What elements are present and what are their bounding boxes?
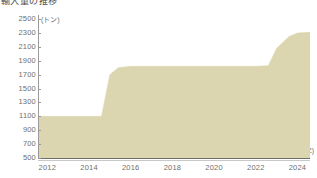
y-axis-tick-label: 1300 <box>19 99 37 107</box>
y-axis-tick-label: 1500 <box>19 85 37 93</box>
x-axis-tick-label: 2024 <box>289 163 307 172</box>
y-axis-tick-label: 1700 <box>19 71 37 79</box>
y-axis-tick-mark <box>38 33 41 34</box>
y-axis-tick-mark <box>38 75 41 76</box>
y-axis-tick-mark <box>38 158 41 159</box>
x-axis-tick-label: 2020 <box>205 163 223 172</box>
y-axis-tick-mark <box>38 61 41 62</box>
x-axis-tick-label: 2014 <box>80 163 98 172</box>
plot-area <box>39 15 310 158</box>
x-axis-tick-label: 2018 <box>164 163 182 172</box>
y-axis-tick-label: 2300 <box>19 29 37 37</box>
y-axis-tick-label: 1100 <box>19 113 36 121</box>
chart-title-strip: 輸入量の推移 <box>0 0 317 7</box>
y-axis-tick-label: 2100 <box>19 43 37 51</box>
area-series-fill <box>39 32 310 158</box>
y-axis-tick-mark <box>38 144 41 145</box>
y-axis-tick-mark <box>38 89 41 90</box>
x-axis-tick-label: 2022 <box>247 163 265 172</box>
x-axis-tick-label: 2016 <box>122 163 140 172</box>
y-axis-tick-mark <box>38 116 41 117</box>
area-series-chart <box>39 15 310 158</box>
x-axis-line-secondary <box>38 160 310 161</box>
y-axis-tick-label: 900 <box>23 126 36 134</box>
chart-root: 輸入量の推移 500700900110013001500170019002100… <box>0 0 317 178</box>
y-axis-tick-label: 700 <box>23 140 36 148</box>
x-axis-line <box>38 158 310 159</box>
y-axis-tick-mark <box>38 130 41 131</box>
y-axis-tick-mark <box>38 19 41 20</box>
y-axis-tick-label: 500 <box>23 154 36 162</box>
y-axis-tick-mark <box>38 102 41 103</box>
y-axis-tick-label: 2500 <box>19 15 37 23</box>
y-axis-tick-label: 1900 <box>19 57 37 65</box>
y-axis-tick-mark <box>38 47 41 48</box>
y-axis-tick-labels: 5007009001100130015001700190021002300250… <box>0 0 36 178</box>
x-axis-tick-label: 2012 <box>39 163 57 172</box>
